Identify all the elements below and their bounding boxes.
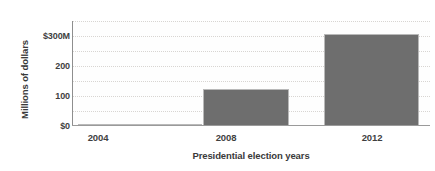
y-tick-label-200: 200 [30,61,70,71]
y-axis-line [72,21,73,126]
y-tick-label-300: $300M [30,31,70,41]
y-tick-label-0: $0 [30,121,70,131]
plot-area [72,21,430,126]
bar-2012[interactable] [324,34,419,126]
y-tick-label-100: 100 [30,91,70,101]
gridline-top [72,21,430,22]
x-axis-title: Presidential election years [72,150,430,161]
x-tick-label-2004: 2004 [38,132,158,143]
bar-chart-figure: Millions of dollars $300M 200 100 $0 200… [0,0,435,171]
bar-2008[interactable] [203,89,289,126]
x-tick-label-2012: 2012 [324,132,420,143]
x-axis-line [72,125,430,126]
y-axis-tick-labels: $300M 200 100 $0 [28,0,70,171]
x-tick-label-2008: 2008 [186,132,266,143]
